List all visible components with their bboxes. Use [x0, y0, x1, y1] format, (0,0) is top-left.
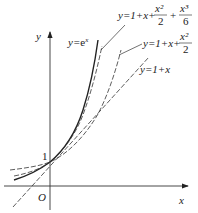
y-tick-1-label: 1	[42, 150, 48, 162]
label-quadratic: y=1+x+ x² 2	[142, 30, 192, 55]
svg-text:2: 2	[183, 43, 189, 55]
svg-text:x²: x²	[179, 30, 189, 42]
curve-cubic	[14, 46, 102, 176]
x-axis-label: x	[178, 194, 184, 206]
taylor-approximation-diagram: x y O 1 y=ex y=1+x+ x² 2 + x³ 6 y=1+x+ x…	[0, 0, 198, 213]
line-linear	[13, 57, 149, 207]
label-cubic: y=1+x+ x² 2 + x³ 6	[117, 2, 192, 27]
svg-text:x²: x²	[154, 2, 164, 14]
svg-text:2: 2	[158, 15, 164, 27]
label-linear: y=1+x	[139, 63, 170, 75]
origin-label: O	[38, 191, 46, 203]
svg-text:+: +	[170, 9, 176, 21]
curve-quadratic	[10, 50, 121, 170]
svg-text:6: 6	[183, 15, 189, 27]
leader-cubic	[101, 25, 125, 50]
svg-text:x³: x³	[179, 2, 189, 14]
label-exp: y=ex	[67, 36, 89, 48]
y-axis-label: y	[35, 30, 41, 42]
leader-quadratic	[119, 44, 142, 55]
svg-text:y=1+x+: y=1+x+	[117, 9, 156, 21]
svg-text:y=1+x+: y=1+x+	[142, 37, 181, 49]
